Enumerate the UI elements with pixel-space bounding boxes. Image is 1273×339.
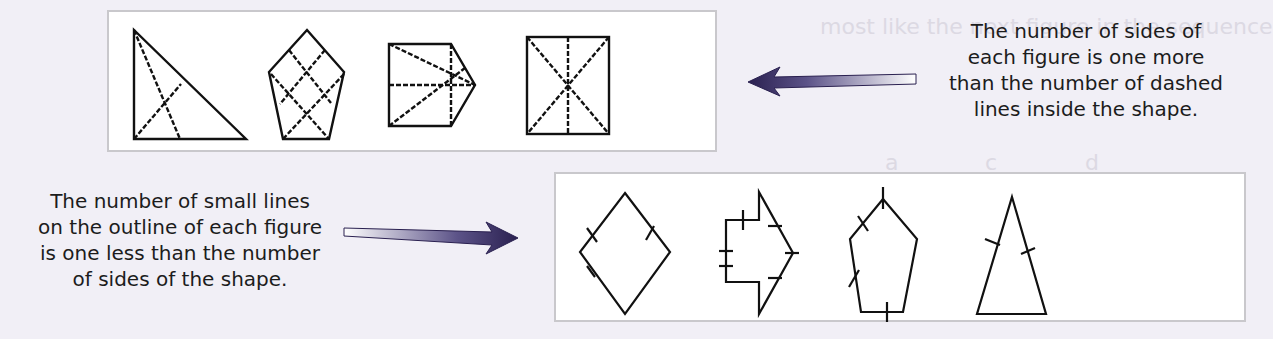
- top-caption-line: lines inside the shape.: [925, 96, 1247, 122]
- dashed-line-figures: [109, 12, 719, 154]
- top-caption-line: each figure is one more: [925, 44, 1247, 70]
- top-caption-line: The number of sides of: [925, 18, 1247, 44]
- figure-arrow-polygon: [719, 192, 799, 314]
- bottom-caption: The number of small lines on the outline…: [20, 188, 340, 292]
- figure-isosceles-triangle: [977, 197, 1046, 314]
- figure-pentagon: [849, 187, 917, 322]
- bottom-figure-panel: [554, 172, 1246, 322]
- arrow-right-icon: [340, 218, 520, 258]
- figure-rectangle: [527, 37, 609, 134]
- tick-mark-figures: [556, 174, 1248, 324]
- figure-rhombus: [580, 193, 670, 314]
- bottom-caption-line: is one less than the number: [20, 240, 340, 266]
- bottom-caption-line: of sides of the shape.: [20, 266, 340, 292]
- arrow-left-icon: [746, 62, 926, 102]
- top-caption: The number of sides of each figure is on…: [925, 18, 1247, 122]
- top-caption-line: than the number of dashed: [925, 70, 1247, 96]
- bottom-caption-line: on the outline of each figure: [20, 214, 340, 240]
- figure-right-triangle: [134, 30, 246, 139]
- figure-pentagon: [269, 30, 344, 139]
- top-figure-panel: [107, 10, 717, 152]
- bottom-caption-line: The number of small lines: [20, 188, 340, 214]
- figure-square-point: [389, 44, 475, 126]
